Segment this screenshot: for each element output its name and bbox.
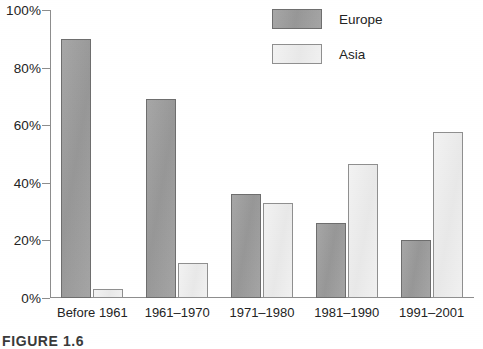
bar-europe-3 — [316, 223, 346, 298]
category-label: 1991–2001 — [389, 305, 474, 320]
bar-asia-1 — [178, 263, 208, 298]
y-tick-mark — [42, 183, 50, 184]
y-tick-mark — [42, 68, 50, 69]
bar-europe-0 — [61, 39, 91, 298]
europe-swatch-icon — [272, 9, 322, 29]
bar-asia-0 — [93, 289, 123, 298]
category-label: Before 1961 — [50, 305, 135, 320]
y-tick-label: 80% — [14, 60, 41, 75]
bar-asia-3 — [348, 164, 378, 298]
y-tick-label: 60% — [14, 118, 41, 133]
y-axis-line — [50, 10, 51, 298]
legend-label-asia: Asia — [339, 47, 365, 62]
bar-asia-2 — [263, 203, 293, 298]
y-tick-mark — [42, 10, 50, 11]
bar-europe-1 — [146, 99, 176, 298]
y-tick-label: 20% — [14, 233, 41, 248]
y-tick-label: 100% — [6, 3, 41, 18]
asia-swatch-icon — [272, 44, 322, 64]
bar-europe-2 — [231, 194, 261, 298]
legend-entry-europe: Europe — [272, 8, 442, 30]
category-label: 1961–1970 — [135, 305, 220, 320]
legend-label-europe: Europe — [339, 12, 383, 27]
y-tick-mark — [42, 240, 50, 241]
category-label: 1971–1980 — [220, 305, 305, 320]
legend-entry-asia: Asia — [272, 43, 442, 65]
chart-legend: Europe Asia — [272, 8, 442, 78]
y-tick-label: 0% — [21, 291, 41, 306]
category-label: 1981–1990 — [304, 305, 389, 320]
y-tick-label: 40% — [14, 175, 41, 190]
bar-europe-4 — [401, 240, 431, 298]
bar-asia-4 — [433, 132, 463, 298]
y-tick-mark — [42, 125, 50, 126]
y-tick-mark — [42, 298, 50, 299]
figure-caption: FIGURE 1.6 — [2, 333, 84, 349]
